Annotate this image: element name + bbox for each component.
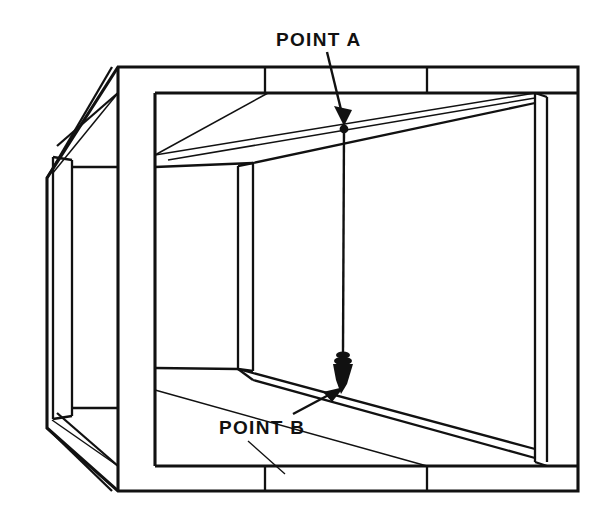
diagram-root: POINT A POINT B	[0, 0, 607, 526]
plumb-bob-string	[343, 129, 344, 352]
point-b-label: POINT B	[219, 417, 305, 438]
technical-line-drawing: POINT A POINT B	[0, 0, 607, 526]
point-a-label: POINT A	[276, 29, 361, 50]
plumb-bob-collar-lower	[334, 357, 352, 365]
floor-band-front-left	[155, 368, 238, 369]
